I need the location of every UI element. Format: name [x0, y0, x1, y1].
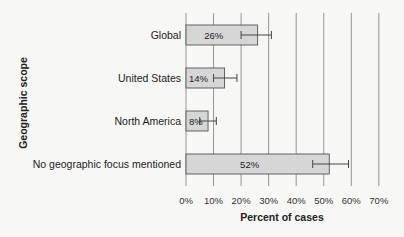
x-tick-label: 10%	[204, 195, 224, 206]
category-label: No geographic focus mentioned	[33, 158, 181, 170]
bar-value-label: 8%	[189, 116, 203, 127]
bar-value-label: 52%	[240, 159, 260, 170]
category-label: North America	[114, 115, 181, 127]
category-label: Global	[151, 29, 181, 41]
x-axis-title: Percent of cases	[240, 211, 324, 223]
category-labels: GlobalUnited StatesNorth AmericaNo geogr…	[33, 29, 181, 170]
x-tick-labels: 0%10%20%30%40%50%60%70%	[179, 195, 389, 206]
x-tick-label: 40%	[287, 195, 307, 206]
category-label: United States	[118, 72, 181, 84]
x-tick-label: 50%	[314, 195, 334, 206]
x-tick-label: 30%	[259, 195, 279, 206]
x-tick-label: 20%	[232, 195, 252, 206]
bar-value-label: 14%	[189, 73, 209, 84]
x-tick-label: 0%	[179, 195, 193, 206]
y-axis-title: Geographic scope	[17, 57, 29, 149]
bar-chart: 0%10%20%30%40%50%60%70% 26%14%8%52% Glob…	[0, 0, 404, 237]
x-tick-label: 70%	[369, 195, 389, 206]
x-tick-label: 60%	[342, 195, 362, 206]
bar-value-label: 26%	[204, 30, 224, 41]
